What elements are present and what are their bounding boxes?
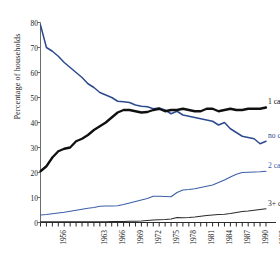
- series-line-2-cars: [41, 171, 267, 215]
- series-label-2-cars: 2 cars: [268, 161, 280, 170]
- series-line-no-car: [41, 25, 267, 144]
- series-line-1-car: [41, 108, 267, 172]
- series-label-no-car: no car: [268, 131, 280, 140]
- series-label-3-cars: 3+ cars: [268, 199, 280, 208]
- series-label-1-car: 1 car: [268, 97, 280, 106]
- vehicle-ownership-line-chart: Percentage of households 010203040506070…: [0, 0, 280, 266]
- plot-canvas: [0, 0, 280, 266]
